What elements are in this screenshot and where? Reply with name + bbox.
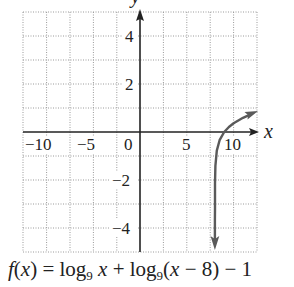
x-tick-label: 10 [224, 135, 241, 154]
y-axis-label: y [129, 0, 140, 8]
formula-plus: + log [107, 257, 156, 281]
formula-var: x [21, 257, 30, 281]
axes [23, 9, 259, 252]
y-tick-label: −4 [112, 219, 131, 238]
x-tick-label: −10 [25, 135, 52, 154]
formula-var: x [93, 257, 108, 281]
formula-eq: ) = log [30, 257, 86, 281]
x-tick-label: −5 [77, 135, 95, 154]
formula-paren: ( [14, 257, 21, 281]
x-tick-label: 5 [182, 135, 191, 154]
y-tick-label: 2 [125, 75, 134, 94]
y-tick-label: 4 [125, 27, 134, 46]
function-caption: f(x) = log9 x + log9(x − 8) − 1 [8, 257, 252, 282]
formula-tail: − 8) − 1 [179, 257, 252, 281]
graph: −10 −5 0 5 10 4 2 −2 −4 x y [0, 0, 294, 257]
y-tick-label: −2 [112, 171, 130, 190]
x-tick-label: 0 [124, 135, 133, 154]
x-axis-label: x [263, 120, 273, 142]
